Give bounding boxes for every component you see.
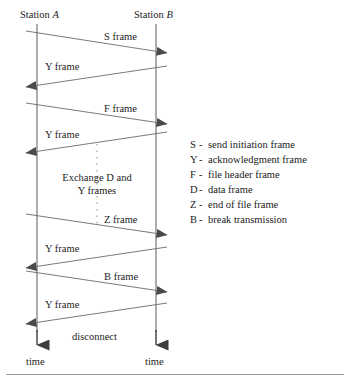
- legend-key: B: [190, 213, 199, 228]
- label-disconnect: disconnect: [72, 332, 117, 343]
- legend-description: break transmission: [208, 213, 346, 228]
- legend-item: S - send initiation frame: [190, 138, 346, 153]
- label-s-frame: S frame: [104, 32, 137, 43]
- legend-dash: -: [199, 213, 208, 228]
- legend-description: end of file frame: [208, 198, 346, 213]
- legend: S - send initiation frame Y - acknowledg…: [190, 138, 346, 227]
- label-b-frame: B frame: [104, 272, 138, 283]
- bottom-divider: [6, 374, 344, 375]
- legend-key: S: [190, 138, 199, 153]
- label-f-frame: F frame: [104, 104, 137, 115]
- station-a-label: Station: [20, 9, 50, 20]
- legend-dash: -: [199, 183, 208, 198]
- label-y-frame-2: Y frame: [45, 130, 79, 141]
- legend-description: data frame: [208, 183, 346, 198]
- legend-item: F - file header frame: [190, 168, 346, 183]
- station-a-italic: A: [52, 9, 58, 20]
- exchange-note-line-1: Exchange D and: [38, 171, 156, 184]
- legend-key: Y: [190, 153, 199, 168]
- label-y-frame-1: Y frame: [45, 62, 79, 73]
- legend-item: Y - acknowledgment frame: [190, 153, 346, 168]
- legend-description: send initiation frame: [208, 138, 346, 153]
- legend-key: Z: [190, 198, 199, 213]
- message-arrow-b-frame: [26, 271, 167, 292]
- legend-item: B - break transmission: [190, 213, 346, 228]
- legend-description: acknowledgment frame: [208, 153, 346, 168]
- message-arrow-s-frame: [26, 31, 167, 53]
- legend-dash: -: [199, 168, 208, 183]
- message-arrow-z-frame: [26, 214, 167, 235]
- station-b-italic: B: [166, 9, 172, 20]
- exchange-note-line-2: Y frames: [38, 184, 156, 197]
- legend-dash: -: [199, 198, 208, 213]
- legend-item: D - data frame: [190, 183, 346, 198]
- station-a-header: Station A: [20, 10, 59, 21]
- legend-dash: -: [199, 153, 208, 168]
- message-arrow-f-frame: [26, 103, 167, 124]
- legend-item: Z - end of file frame: [190, 198, 346, 213]
- exchange-note: Exchange D and Y frames: [38, 171, 156, 197]
- time-label-left: time: [26, 357, 45, 368]
- station-b-header: Station B: [134, 10, 173, 21]
- sequence-diagram-figure: Station A Station B S frame Y frame F fr…: [0, 0, 350, 387]
- label-y-frame-4: Y frame: [45, 300, 79, 311]
- time-label-right: time: [145, 357, 164, 368]
- legend-key: D: [190, 183, 199, 198]
- legend-dash: -: [199, 138, 208, 153]
- station-b-label: Station: [134, 9, 164, 20]
- legend-key: F: [190, 168, 199, 183]
- label-y-frame-3: Y frame: [45, 244, 79, 255]
- legend-description: file header frame: [208, 168, 346, 183]
- label-z-frame: Z frame: [104, 215, 138, 226]
